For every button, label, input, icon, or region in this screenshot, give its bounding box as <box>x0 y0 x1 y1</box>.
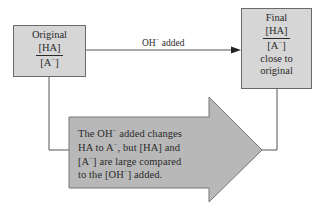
original-numerator: [HA] <box>36 42 62 55</box>
explanation-line-1: The OH− added changes <box>78 127 210 141</box>
original-title: Original <box>14 29 85 42</box>
explanation-line-4: to the [OH−] added. <box>78 168 210 182</box>
final-denominator: [A−] <box>263 40 289 53</box>
explanation-line-3: [A−] are large compared <box>78 155 210 169</box>
final-ratio-box: Final [HA] [A−] close to original <box>241 8 312 89</box>
final-note-line1: close to <box>242 53 311 66</box>
final-numerator: [HA] <box>263 25 289 38</box>
original-ratio-fraction: [HA] [A−] <box>36 42 62 70</box>
explanation-line-2: HA to A−, but [HA] and <box>78 141 210 155</box>
fraction-bar <box>263 38 289 39</box>
final-to-explanation-connector <box>262 89 277 150</box>
explanation-text: The OH− added changes HA to A−, but [HA]… <box>78 127 210 182</box>
final-note-line2: original <box>242 65 311 78</box>
fraction-bar <box>36 55 62 56</box>
oh-added-label: OH− added <box>142 38 184 48</box>
final-title: Final <box>242 12 311 25</box>
final-ratio-fraction: [HA] [A−] <box>263 25 289 53</box>
arrowhead-icon <box>231 47 241 54</box>
original-ratio-box: Original [HA] [A−] <box>13 25 86 77</box>
original-denominator: [A−] <box>36 57 62 70</box>
original-to-explanation-connector <box>49 77 69 150</box>
